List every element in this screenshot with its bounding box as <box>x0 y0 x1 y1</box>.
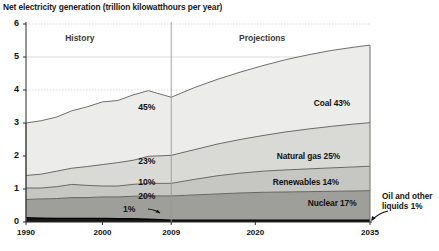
history-label: History <box>65 33 94 43</box>
x-tick-2009: 2009 <box>151 228 191 237</box>
x-tick-1990: 1990 <box>6 228 46 237</box>
y-tick-3: 3 <box>5 117 19 127</box>
series-label-coal: Coal 43% <box>314 98 350 108</box>
series-label-natural-gas: Natural gas 25% <box>277 151 340 161</box>
series-label-oil-line2: liquids 1% <box>382 202 433 212</box>
pct-label-coal-2009: 45% <box>138 102 155 112</box>
y-tick-0: 0 <box>5 216 19 226</box>
pct-label-renewables-2009: 10% <box>138 177 155 187</box>
series-label-nuclear: Nuclear 17% <box>308 198 357 208</box>
series-label-oil-and-other-liquids: Oil and other liquids 1% <box>382 192 433 211</box>
x-tick-2035: 2035 <box>350 228 390 237</box>
series-label-oil-line1: Oil and other <box>382 192 433 202</box>
y-tick-1: 1 <box>5 183 19 193</box>
y-tick-5: 5 <box>5 51 19 61</box>
chart-page: Net electricity generation (trillion kil… <box>0 0 439 251</box>
x-tick-2020: 2020 <box>235 228 275 237</box>
y-tick-4: 4 <box>5 84 19 94</box>
pct-label-natural-gas-2009: 23% <box>138 156 155 166</box>
pct-label-oil-2009: 1% <box>123 204 135 214</box>
series-label-renewables: Renewables 14% <box>273 177 339 187</box>
area-series-group <box>26 45 370 222</box>
projections-label: Projections <box>239 33 285 43</box>
y-tick-6: 6 <box>5 18 19 28</box>
pct-label-nuclear-2009: 20% <box>138 191 155 201</box>
x-tick-2000: 2000 <box>82 228 122 237</box>
y-tick-2: 2 <box>5 150 19 160</box>
